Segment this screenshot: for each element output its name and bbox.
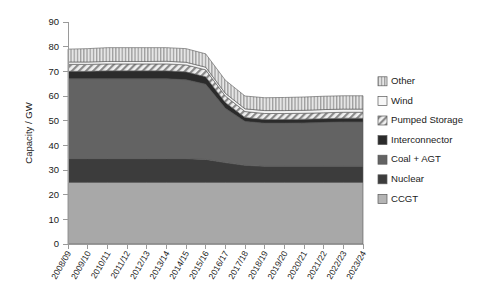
legend-label: Coal + AGT — [391, 153, 441, 164]
y-tick-label: 40 — [48, 140, 59, 151]
legend-swatch-icon — [378, 194, 387, 203]
legend-label: Interconnector — [391, 134, 453, 145]
y-tick-label: 0 — [54, 238, 59, 249]
legend-swatch-icon — [378, 155, 387, 164]
y-tick-label: 30 — [48, 164, 59, 175]
legend: OtherWindPumped StorageInterconnectorCoa… — [378, 75, 463, 204]
y-tick-label: 80 — [48, 41, 59, 52]
legend-item-coal-agt[interactable]: Coal + AGT — [378, 153, 441, 164]
area-series-ccgt — [68, 182, 363, 244]
legend-label: Wind — [391, 95, 413, 106]
y-tick-label: 60 — [48, 90, 59, 101]
y-axis-title: Capacity / GW — [23, 102, 34, 163]
legend-swatch-icon — [378, 136, 387, 145]
legend-item-pumped-storage[interactable]: Pumped Storage — [378, 114, 463, 125]
legend-label: Nuclear — [391, 173, 425, 184]
legend-swatch-icon — [378, 77, 387, 86]
y-tick-label: 90 — [48, 16, 59, 27]
legend-swatch-icon — [378, 116, 387, 125]
y-tick-label: 10 — [48, 214, 59, 225]
chart-canvas: 0102030405060708090 2008/092009/102010/1… — [0, 0, 493, 308]
y-tick-label: 20 — [48, 189, 59, 200]
legend-item-ccgt[interactable]: CCGT — [378, 193, 418, 204]
legend-item-wind[interactable]: Wind — [378, 95, 413, 106]
y-tick-label: 70 — [48, 66, 59, 77]
y-axis-ticks-group: 0102030405060708090 — [48, 16, 68, 249]
legend-label: CCGT — [391, 193, 418, 204]
legend-label: Pumped Storage — [391, 114, 463, 125]
legend-item-other[interactable]: Other — [378, 75, 416, 86]
legend-item-interconnector[interactable]: Interconnector — [378, 134, 453, 145]
legend-swatch-icon — [378, 96, 387, 105]
x-axis-ticks-group: 2008/092009/102010/112011/122012/132013/… — [49, 244, 368, 281]
y-tick-label: 50 — [48, 115, 59, 126]
capacity-stacked-area-chart: 0102030405060708090 2008/092009/102010/1… — [0, 0, 493, 308]
legend-swatch-icon — [378, 175, 387, 184]
legend-label: Other — [391, 75, 416, 86]
legend-item-nuclear[interactable]: Nuclear — [378, 173, 425, 184]
